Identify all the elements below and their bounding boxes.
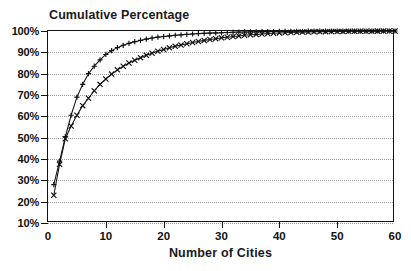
marker-plus-17 <box>144 37 149 42</box>
marker-plus-16 <box>138 38 143 43</box>
y-tick-50 <box>41 138 48 139</box>
marker-plus-25 <box>190 31 195 36</box>
marker-plus-19 <box>155 35 160 40</box>
series-upper-series <box>51 28 397 187</box>
x-tick-label-20: 20 <box>157 230 170 242</box>
marker-plus-13 <box>121 43 126 48</box>
plot-area: 10%20%30%40%50%60%70%80%90%100% 01020304… <box>47 30 394 222</box>
y-tick-70 <box>41 95 48 96</box>
marker-plus-22 <box>173 33 178 38</box>
y-tick-label-50: 50% <box>18 132 39 144</box>
marker-plus-21 <box>167 33 172 38</box>
y-tick-label-40: 40% <box>18 153 39 165</box>
marker-cross-9 <box>97 82 102 87</box>
y-tick-label-100: 100% <box>12 25 39 37</box>
marker-cross-13 <box>121 64 126 69</box>
marker-cross-8 <box>92 88 97 93</box>
x-tick-label-0: 0 <box>45 230 51 242</box>
y-tick-10 <box>41 223 48 224</box>
marker-cross-7 <box>86 96 91 101</box>
marker-cross-10 <box>103 76 108 81</box>
marker-cross-16 <box>138 55 143 60</box>
marker-plus-20 <box>161 34 166 39</box>
y-tick-label-70: 70% <box>18 89 39 101</box>
y-tick-label-80: 80% <box>18 68 39 80</box>
gridline-y-10 <box>48 223 393 224</box>
y-tick-20 <box>41 202 48 203</box>
marker-cross-4 <box>69 123 74 128</box>
marker-cross-11 <box>109 71 114 76</box>
marker-cross-6 <box>80 103 85 108</box>
marker-plus-29 <box>213 30 218 35</box>
y-tick-40 <box>41 159 48 160</box>
y-tick-100 <box>41 31 48 32</box>
marker-plus-23 <box>178 32 183 37</box>
y-tick-label-30: 30% <box>18 174 39 186</box>
series-layer <box>48 31 395 223</box>
y-tick-label-60: 60% <box>18 110 39 122</box>
chart-figure: Cumulative Percentage 10%20%30%40%50%60%… <box>0 0 411 271</box>
x-tick-label-40: 40 <box>273 230 286 242</box>
marker-plus-6 <box>80 82 85 87</box>
y-tick-60 <box>41 116 48 117</box>
marker-plus-12 <box>115 45 120 50</box>
marker-plus-31 <box>225 30 230 35</box>
y-tick-30 <box>41 180 48 181</box>
marker-plus-44 <box>300 29 305 34</box>
marker-cross-14 <box>126 60 131 65</box>
x-axis-label: Number of Cities <box>47 246 394 260</box>
y-tick-label-20: 20% <box>18 196 39 208</box>
y-tick-80 <box>41 74 48 75</box>
marker-plus-4 <box>69 113 74 118</box>
marker-cross-15 <box>132 58 137 63</box>
marker-plus-30 <box>219 30 224 35</box>
x-tick-label-10: 10 <box>99 230 112 242</box>
marker-plus-14 <box>126 41 131 46</box>
x-tick-label-60: 60 <box>389 230 402 242</box>
marker-plus-36 <box>254 29 259 34</box>
marker-cross-17 <box>144 53 149 58</box>
y-tick-90 <box>41 52 48 53</box>
marker-plus-24 <box>184 32 189 37</box>
marker-plus-27 <box>202 31 207 36</box>
marker-plus-28 <box>207 31 212 36</box>
marker-plus-18 <box>150 35 155 40</box>
y-tick-label-90: 90% <box>18 46 39 58</box>
marker-plus-26 <box>196 31 201 36</box>
marker-plus-43 <box>294 29 299 34</box>
marker-cross-5 <box>74 113 79 118</box>
x-tick-label-50: 50 <box>331 230 344 242</box>
marker-cross-12 <box>115 67 120 72</box>
x-tick-label-30: 30 <box>215 230 228 242</box>
series-lower-series <box>51 28 397 197</box>
marker-plus-5 <box>74 95 79 100</box>
chart-title: Cumulative Percentage <box>49 8 189 22</box>
y-tick-label-10: 10% <box>18 217 39 229</box>
marker-plus-15 <box>132 39 137 44</box>
marker-cross-18 <box>150 51 155 56</box>
